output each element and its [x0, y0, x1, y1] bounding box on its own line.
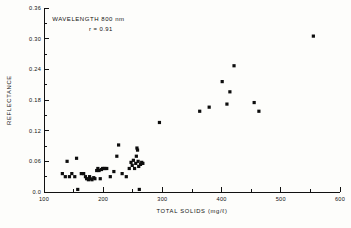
data-point [137, 160, 140, 163]
y-tick-label: 0.0 [32, 189, 41, 195]
data-point [221, 80, 224, 83]
data-point [158, 121, 161, 124]
data-point [138, 188, 141, 191]
data-point [65, 160, 68, 163]
data-point [117, 143, 120, 146]
x-tick-label: 200 [98, 196, 108, 202]
y-tick-label: 0.12 [29, 128, 41, 134]
data-point [99, 177, 102, 180]
x-axis-tick-labels: 100200300400500600 [39, 196, 345, 202]
annotation-correlation: r = 0.91 [89, 26, 113, 32]
data-point [105, 167, 108, 170]
data-point [312, 35, 315, 38]
data-point [125, 175, 128, 178]
y-axis-tick-labels: 0.00.060.120.180.240.300.36 [29, 5, 41, 195]
data-point [253, 101, 256, 104]
data-point [128, 167, 131, 170]
x-tick-label: 600 [335, 196, 345, 202]
data-point [133, 167, 136, 170]
data-point [121, 172, 124, 175]
data-point-group [61, 35, 315, 192]
data-point [93, 177, 96, 180]
data-point [232, 64, 235, 67]
data-point [131, 164, 134, 167]
y-tick-label: 0.30 [29, 36, 41, 42]
data-point [109, 175, 112, 178]
data-point [132, 159, 135, 162]
y-tick-label: 0.06 [29, 158, 41, 164]
data-point [112, 170, 115, 173]
data-point [136, 148, 139, 151]
data-point [61, 172, 64, 175]
y-tick-label: 0.36 [29, 5, 41, 11]
chart-annotations: WAVELENGTH 800 nmr = 0.91 [52, 16, 124, 32]
annotation-wavelength: WAVELENGTH 800 nm [52, 16, 124, 22]
data-point [225, 102, 228, 105]
data-point [68, 175, 71, 178]
y-tick-label: 0.18 [29, 97, 41, 103]
data-point [135, 155, 138, 158]
y-axis-ticks [44, 8, 49, 192]
x-tick-label: 100 [39, 196, 49, 202]
x-tick-label: 300 [157, 196, 167, 202]
data-point [198, 110, 201, 113]
data-point [115, 155, 118, 158]
data-point [70, 172, 73, 175]
x-axis-title: TOTAL SOLIDS (mg/ℓ) [156, 208, 227, 214]
figure-container: 0.00.060.120.180.240.300.36 100200300400… [0, 0, 351, 228]
data-point [208, 106, 211, 109]
x-tick-label: 400 [217, 196, 227, 202]
y-tick-label: 0.24 [29, 66, 41, 72]
data-point [75, 157, 78, 160]
scatter-chart: 0.00.060.120.180.240.300.36 100200300400… [0, 0, 351, 228]
y-axis-title: REFLECTANCE [6, 75, 12, 125]
data-point [76, 188, 79, 191]
data-point [82, 172, 85, 175]
data-point [228, 90, 231, 93]
plot-axes [44, 8, 340, 192]
data-point [73, 175, 76, 178]
data-point [257, 110, 260, 113]
data-point [141, 162, 144, 165]
x-tick-label: 500 [276, 196, 286, 202]
data-point [64, 175, 67, 178]
